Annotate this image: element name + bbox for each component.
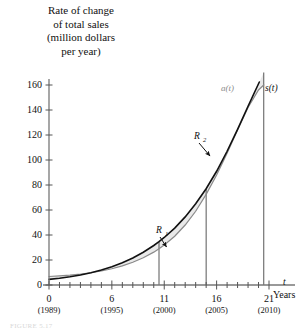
x-tick-sublabel: (2010)	[258, 305, 281, 315]
curve-label-s: s(t)	[265, 83, 278, 94]
chart-svg: 0204060801001201401600(1989)6(1995)11(20…	[0, 0, 307, 333]
y-tick-label: 160	[27, 79, 42, 90]
region-label-r1-text: R	[155, 225, 162, 235]
y-tick-label: 80	[32, 179, 42, 190]
x-tick-sublabel: (1989)	[38, 305, 61, 315]
x-axis-symbol-label: t	[283, 277, 286, 287]
y-tick-label: 0	[37, 279, 42, 290]
x-tick-sublabel: (2005)	[205, 305, 228, 315]
y-tick-label: 40	[32, 229, 42, 240]
region-label-r2: R 2	[193, 131, 210, 156]
region-label-r1-subscript: 1	[165, 230, 168, 237]
x-tick-sublabel: (1995)	[101, 305, 124, 315]
x-tick-label: 0	[47, 293, 52, 304]
x-axis-label: Years	[273, 289, 295, 300]
x-tick-sublabel: (2000)	[153, 305, 176, 315]
axes	[43, 79, 295, 290]
y-tick-label: 20	[32, 254, 42, 265]
region-label-r2-arrow	[199, 143, 210, 156]
x-tick-label: 6	[109, 293, 114, 304]
y-tick-label: 120	[27, 129, 42, 140]
figure-caption: FIGURE 5.17	[10, 322, 53, 330]
x-tick-label: 11	[159, 293, 169, 304]
region-label-r2-subscript: 2	[203, 136, 207, 143]
x-tick-label: 16	[212, 293, 222, 304]
y-tick-label: 140	[27, 104, 42, 115]
tick-labels: 0204060801001201401600(1989)6(1995)11(20…	[27, 79, 280, 315]
y-tick-label: 100	[27, 154, 42, 165]
curve-label-a: a(t)	[221, 83, 234, 93]
plot-area	[49, 73, 264, 286]
y-tick-label: 60	[32, 204, 42, 215]
figure-container: Rate of change of total sales (million d…	[0, 0, 307, 333]
region-label-r2-text: R	[193, 131, 200, 141]
